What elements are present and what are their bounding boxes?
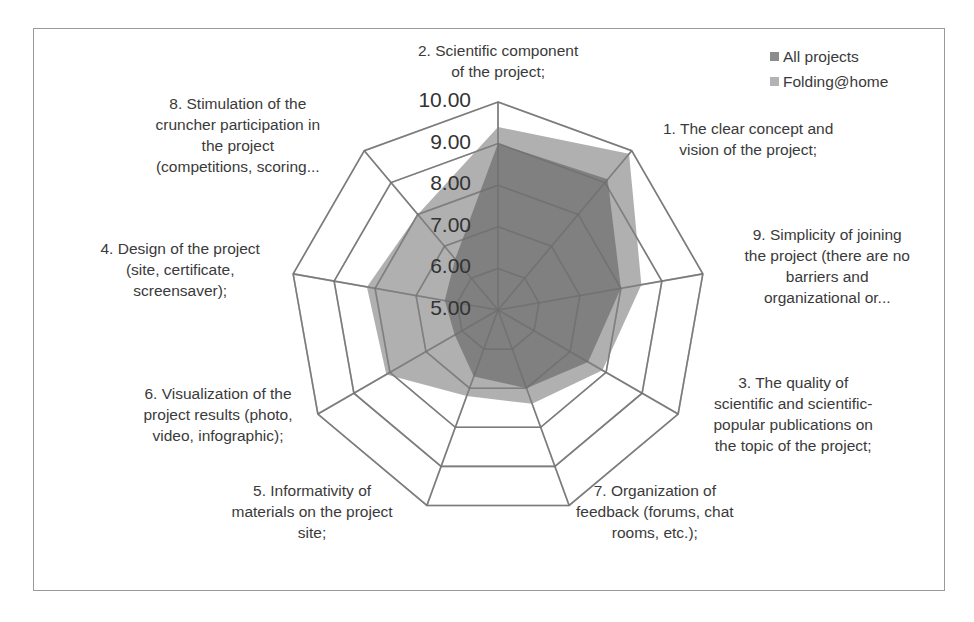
legend-item-all-projects[interactable]: All projects [770,44,888,69]
axis-label-line: cruncher participation in [156,114,321,135]
axis-label-line: video, infographic); [144,425,293,446]
axis-label-line: the project (there are no [745,245,910,266]
tick-label: 7.00 [401,213,471,237]
axis-label-1: 1. The clear concept andvision of the pr… [663,118,833,160]
axis-label-9: 9. Simplicity of joiningthe project (the… [745,224,910,308]
tick-label: 9.00 [401,130,471,154]
axis-label-line: materials on the project [232,501,393,522]
axis-label-line: the project [156,135,321,156]
axis-label-line: scientific and scientific- [714,393,873,414]
tick-label: 5.00 [401,296,471,320]
axis-label-line: 4. Design of the project [101,238,260,259]
axis-label-line: popular publications on [714,414,873,435]
axis-label-line: 1. The clear concept and [663,118,833,139]
axis-label-line: screensaver); [101,280,260,301]
axis-label-line: barriers and [745,266,910,287]
axis-label-line: 5. Informativity of [232,480,393,501]
axis-label-3: 3. The quality ofscientific and scientif… [714,372,873,456]
axis-label-line: feedback (forums, chat [576,501,734,522]
legend: All projects Folding@home [770,44,888,94]
tick-label: 6.00 [401,254,471,278]
axis-label-4: 4. Design of the project(site, certifica… [101,238,260,301]
axis-label-line: of the project; [418,61,578,82]
axis-label-line: the topic of the project; [714,435,873,456]
legend-swatch-all-projects [770,52,779,61]
axis-label-2: 2. Scientific componentof the project; [418,40,578,82]
axis-label-line: (competitions, scoring... [156,156,321,177]
axis-label-line: 9. Simplicity of joining [745,224,910,245]
axis-label-line: vision of the project; [663,139,833,160]
axis-label-line: site; [232,522,393,543]
axis-label-line: 6. Visualization of the [144,383,293,404]
axis-label-5: 5. Informativity ofmaterials on the proj… [232,480,393,543]
radar-grid-overlay [293,102,703,505]
axis-label-line: 8. Stimulation of the [156,93,321,114]
axis-label-line: 2. Scientific component [418,40,578,61]
axis-label-line: organizational or... [745,287,910,308]
axis-label-line: project results (photo, [144,404,293,425]
legend-label: All projects [783,44,859,69]
legend-label: Folding@home [783,69,888,94]
axis-label-line: rooms, etc.); [576,522,734,543]
axis-label-6: 6. Visualization of theproject results (… [144,383,293,446]
legend-item-folding-home[interactable]: Folding@home [770,69,888,94]
tick-label: 10.00 [401,88,471,112]
axis-label-line: (site, certificate, [101,259,260,280]
axis-label-line: 3. The quality of [714,372,873,393]
axis-label-8: 8. Stimulation of thecruncher participat… [156,93,321,177]
axis-label-7: 7. Organization offeedback (forums, chat… [576,480,734,543]
legend-swatch-folding-home [770,77,779,86]
axis-label-line: 7. Organization of [576,480,734,501]
tick-label: 8.00 [401,171,471,195]
